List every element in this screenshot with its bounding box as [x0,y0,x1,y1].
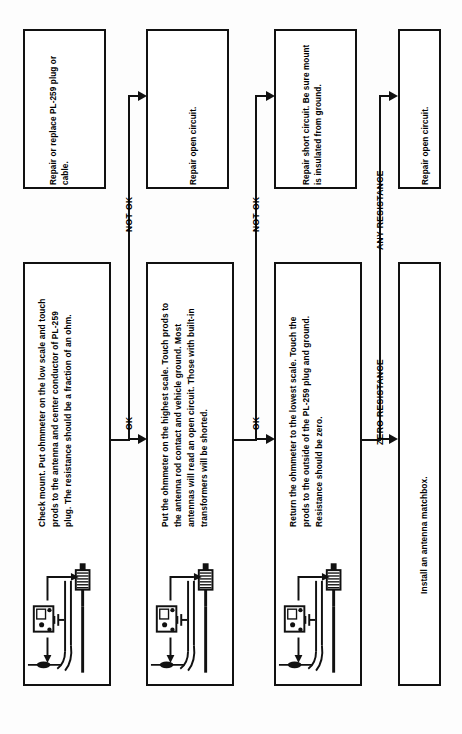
process-box-lowest-scale-text: Return the ohmmeter to the lowest scale.… [287,292,326,527]
outcome-box-repair-open-circuit-1: Repair open circuit. [146,29,229,189]
outcome-box-repair-open-circuit-2: Repair open circuit. [398,29,441,189]
process-box-check-mount: Check mount. Put ohmmeter on the low sca… [23,262,111,686]
process-box-highest-scale-text: Put the ohmmeter on the highest scale. T… [159,292,211,527]
process-box-check-mount-text: Check mount. Put ohmmeter on the low sca… [36,292,75,527]
branch-label-not-ok-2: NOT OK [251,197,261,232]
antenna-test-schematic-2 [149,554,233,680]
branch-label-ok-2: OK [251,416,261,430]
flowchart-page: Repair or replace PL-259 plug or cable. … [0,0,462,734]
antenna-test-schematic-1 [26,554,110,680]
connector-any-resistance-arrowhead [389,91,398,101]
connector-not-ok-2-arrowhead [266,91,275,101]
connector-ok-2-arrowhead [266,434,275,444]
connector-trunk-2 [234,439,256,441]
outcome-box-repair-plug-cable-text: Repair or replace PL-259 plug or cable. [48,37,72,185]
branch-label-any-resistance: ANY RESISTANCE [375,170,385,250]
branch-label-zero-resistance: ZERO RESISTANCE [375,359,385,445]
connector-split-2 [255,95,257,441]
connector-zero-resistance-arrowhead [389,434,398,444]
branch-label-ok-1: OK [124,416,134,430]
outcome-box-repair-short-circuit: Repair short circuit. Be sure mount is i… [274,29,357,189]
process-box-install-matchbox-text: Install an antenna matchbox. [418,359,431,594]
branch-label-not-ok-1: NOT OK [124,197,134,232]
connector-not-ok-1-arrowhead [138,91,147,101]
outcome-box-repair-short-circuit-text: Repair short circuit. Be sure mount is i… [301,37,325,185]
connector-split-1 [128,95,130,441]
process-box-install-matchbox: Install an antenna matchbox. [398,262,441,686]
connector-trunk-1 [111,439,129,441]
process-box-highest-scale: Put the ohmmeter on the highest scale. T… [146,262,234,686]
outcome-box-repair-open-circuit-1-text: Repair open circuit. [188,37,200,185]
antenna-test-schematic-3 [277,554,361,680]
outcome-box-repair-open-circuit-2-text: Repair open circuit. [420,37,432,185]
connector-ok-1-arrowhead [138,434,147,444]
outcome-box-repair-plug-cable: Repair or replace PL-259 plug or cable. [23,29,106,189]
process-box-lowest-scale: Return the ohmmeter to the lowest scale.… [274,262,362,686]
